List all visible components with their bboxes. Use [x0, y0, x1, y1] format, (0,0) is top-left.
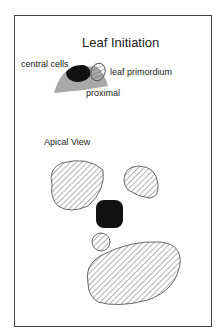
label-central-cells: central cells	[21, 59, 69, 69]
diagram-title: Leaf Initiation	[82, 35, 159, 50]
primordium-small	[92, 233, 110, 251]
primordium-upper-right	[124, 166, 158, 198]
label-proximal: proximal	[86, 88, 120, 98]
diagram-graphics	[0, 0, 224, 336]
primordium-upper-left	[51, 161, 103, 210]
label-leaf-primordium: leaf primordium	[110, 67, 172, 77]
central-cells-apical	[96, 200, 123, 228]
apical-view	[51, 161, 180, 305]
label-apical-view: Apical View	[44, 137, 90, 147]
